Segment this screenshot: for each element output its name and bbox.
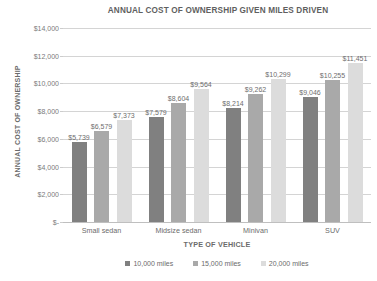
chart-title: ANNUAL COST OF OWNERSHIP GIVEN MILES DRI… [63, 6, 373, 15]
bar[interactable]: $10,255 [325, 80, 340, 222]
x-axis-tick-label: Minivan [243, 226, 268, 235]
chart-legend: 10,000 miles15,000 miles20,000 miles [63, 260, 371, 267]
bar[interactable]: $7,373 [117, 120, 132, 222]
x-axis-tick-label: SUV [325, 226, 340, 235]
bar-group: $9,046$10,255$11,451 [294, 28, 371, 222]
y-axis-tick-label: $14,000 [0, 25, 59, 32]
bar[interactable]: $7,579 [149, 117, 164, 222]
bar[interactable]: $6,579 [94, 131, 109, 222]
y-axis-tick-mark [60, 56, 63, 57]
y-axis-tick-label: $10,000 [0, 80, 59, 87]
y-axis-tick-mark [60, 194, 63, 195]
legend-label: 15,000 miles [201, 260, 241, 267]
bar[interactable]: $5,739 [72, 142, 87, 222]
bar-chart: ANNUAL COST OF OWNERSHIP GIVEN MILES DRI… [0, 0, 377, 281]
y-axis-tick-mark [60, 111, 63, 112]
legend-label: 20,000 miles [269, 260, 309, 267]
legend-swatch-icon [261, 261, 266, 266]
bar-value-label: $8,604 [168, 95, 189, 102]
bar-value-label: $9,046 [299, 89, 320, 96]
plot-area: $5,739$6,579$7,373$7,579$8,604$9,564$8,2… [63, 28, 371, 222]
bar-value-label: $7,579 [145, 109, 166, 116]
y-axis-tick-label: $- [0, 219, 59, 226]
bar-value-label: $5,739 [68, 134, 89, 141]
legend-item[interactable]: 10,000 miles [125, 260, 173, 267]
y-axis-tick-mark [60, 83, 63, 84]
y-axis-tick-mark [60, 28, 63, 29]
legend-swatch-icon [193, 261, 198, 266]
y-axis-tick-label: $4,000 [0, 163, 59, 170]
y-axis-tick-label: $12,000 [0, 52, 59, 59]
bar[interactable]: $8,604 [171, 103, 186, 222]
legend-label: 10,000 miles [133, 260, 173, 267]
y-axis-title: ANNUAL COST OF OWNERSHIP [14, 47, 21, 197]
bar-value-label: $11,451 [343, 55, 368, 62]
legend-swatch-icon [125, 261, 130, 266]
bar-value-label: $6,579 [91, 123, 112, 130]
bar-group: $8,214$9,262$10,299 [217, 28, 294, 222]
legend-item[interactable]: 20,000 miles [261, 260, 309, 267]
bar[interactable]: $11,451 [348, 63, 363, 222]
bar[interactable]: $9,564 [194, 89, 209, 222]
bar-value-label: $10,299 [265, 71, 290, 78]
x-axis-tick-label: Midsize sedan [156, 226, 202, 235]
legend-item[interactable]: 15,000 miles [193, 260, 241, 267]
bar[interactable]: $10,299 [271, 79, 286, 222]
y-axis-tick-label: $8,000 [0, 108, 59, 115]
bar-value-label: $7,373 [113, 112, 134, 119]
bar-value-label: $9,262 [245, 86, 266, 93]
bar-value-label: $9,564 [190, 81, 211, 88]
axis-baseline [63, 222, 371, 223]
y-axis-tick-mark [60, 167, 63, 168]
x-axis-title: TYPE OF VEHICLE [63, 240, 371, 249]
bar-value-label: $8,214 [222, 100, 243, 107]
bar[interactable]: $8,214 [226, 108, 241, 222]
bar-group: $7,579$8,604$9,564 [140, 28, 217, 222]
y-axis-tick-label: $6,000 [0, 135, 59, 142]
y-axis-tick-mark [60, 139, 63, 140]
bar-value-label: $10,255 [320, 72, 345, 79]
x-axis-tick-label: Small sedan [82, 226, 122, 235]
y-axis-tick-label: $2,000 [0, 191, 59, 198]
bar[interactable]: $9,262 [248, 94, 263, 222]
bar-group: $5,739$6,579$7,373 [63, 28, 140, 222]
bar[interactable]: $9,046 [303, 97, 318, 222]
y-axis-tick-mark [60, 222, 63, 223]
